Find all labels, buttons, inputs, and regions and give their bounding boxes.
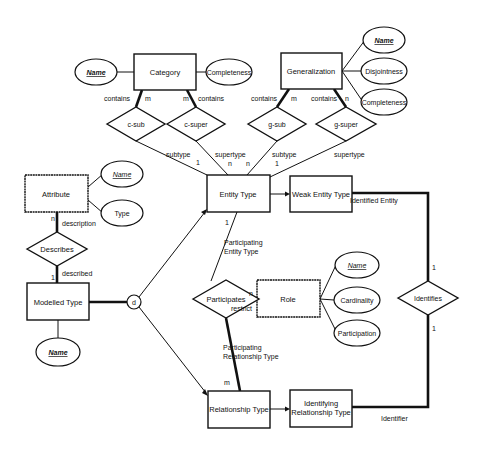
entity-category[interactable]: Category	[134, 54, 196, 90]
label-restrict: restrict	[231, 305, 252, 312]
label-participating-entity-2: Entity Type	[224, 248, 259, 256]
card-1-identifies-top: 1	[432, 264, 436, 271]
label-supertype-c: supertype	[215, 151, 246, 159]
relationship-c-sub[interactable]: c-sub	[107, 107, 165, 141]
card-n-g-sub: n	[246, 160, 250, 167]
card-1-g-sub: 1	[275, 160, 279, 167]
card-1-described: 1	[51, 274, 55, 281]
relationship-type-label: Relationship Type	[209, 405, 268, 414]
gen-name-text: Name	[374, 37, 393, 44]
describes-label: Describes	[40, 245, 74, 254]
g-super-label: g-super	[334, 121, 358, 129]
attribute-attribute-type[interactable]: Type	[101, 200, 143, 226]
entity-relationship-type[interactable]: Relationship Type	[208, 391, 270, 428]
participates-label: Participates	[206, 295, 245, 304]
generalization-label: Generalization	[287, 67, 335, 76]
label-description: description	[62, 220, 96, 228]
label-subtype-c: subtype	[166, 151, 191, 159]
attribute-label: Attribute	[42, 190, 70, 199]
label-identified-entity: Identified Entity	[350, 197, 398, 205]
attribute-generalization-name[interactable]: Name	[363, 27, 405, 53]
attr-name-text: Name	[113, 171, 132, 178]
relationship-c-super[interactable]: c-super	[167, 107, 225, 141]
label-contains-g-super: contains	[311, 95, 338, 102]
entity-modelled-type[interactable]: Modelled Type	[27, 283, 89, 320]
attribute-role-participation[interactable]: Participation	[334, 320, 380, 346]
g-sub-label: g-sub	[268, 121, 286, 129]
card-m-c-super: m	[183, 95, 189, 102]
attribute-role-cardinality[interactable]: Cardinality	[334, 287, 380, 313]
weak-entity-type-label: Weak Entity Type	[292, 190, 350, 199]
c-sub-label: c-sub	[127, 121, 144, 128]
relationship-g-sub[interactable]: g-sub	[248, 107, 306, 141]
card-n-role: n	[249, 290, 253, 297]
relationship-describes[interactable]: Describes	[27, 232, 87, 266]
modelled-type-label: Modelled Type	[34, 298, 83, 307]
label-described: described	[62, 270, 92, 277]
entity-type-label: Entity Type	[220, 190, 257, 199]
category-name-text: Name	[86, 69, 105, 76]
identifying-rel-label-1: Identifying	[304, 399, 338, 408]
edge-labels: contains m m contains contains m contain…	[51, 95, 436, 422]
entity-attribute[interactable]: Attribute	[25, 175, 88, 212]
entity-identifying-relationship-type[interactable]: Identifying Relationship Type	[290, 390, 352, 427]
card-n-c-super: n	[228, 160, 232, 167]
card-m-g-sub: m	[291, 95, 297, 102]
role-cardinality-text: Cardinality	[340, 297, 374, 305]
modelled-name-text: Name	[48, 349, 67, 356]
attribute-generalization-disjointness[interactable]: Disjointness	[361, 58, 407, 84]
label-participating-rel-2: Relationship Type	[223, 353, 279, 361]
identifying-rel-label-2: Relationship Type	[291, 408, 350, 417]
entity-generalization[interactable]: Generalization	[281, 53, 342, 89]
label-contains-c-sub: contains	[104, 95, 131, 102]
label-participating-entity-1: Participating	[224, 239, 263, 247]
card-m-participating-rel: m	[224, 379, 230, 386]
relationship-g-super[interactable]: g-super	[316, 107, 376, 141]
gen-disjointness-text: Disjointness	[365, 68, 403, 76]
label-contains-c-super: contains	[198, 95, 225, 102]
entity-entity-type[interactable]: Entity Type	[207, 175, 270, 212]
attribute-attribute-name[interactable]: Name	[101, 161, 143, 187]
disjoint-specialization-circle[interactable]: d	[127, 295, 141, 309]
gen-completeness-text: Completeness	[362, 99, 407, 107]
label-identifier: Identifier	[381, 415, 409, 422]
c-super-label: c-super	[184, 121, 208, 129]
er-diagram: Category Generalization Entity Type Weak…	[0, 0, 483, 449]
attribute-modelled-name[interactable]: Name	[36, 338, 80, 366]
label-contains-g-sub: contains	[251, 95, 278, 102]
label-subtype-g: subtype	[272, 151, 297, 159]
entity-weak-entity-type[interactable]: Weak Entity Type	[290, 176, 352, 212]
card-1-identifies-bottom: 1	[432, 325, 436, 332]
attribute-generalization-completeness[interactable]: Completeness	[361, 89, 407, 115]
disjoint-symbol: d	[132, 299, 136, 306]
label-participating-rel-1: Participating	[223, 344, 262, 352]
category-label: Category	[150, 68, 181, 77]
label-supertype-g: supertype	[334, 151, 365, 159]
attribute-category-name[interactable]: Name	[75, 59, 117, 85]
role-name-text: Name	[348, 262, 367, 269]
attribute-role-name[interactable]: Name	[335, 252, 379, 278]
card-m-c-sub: m	[145, 95, 151, 102]
card-n-describes: n	[51, 215, 55, 222]
role-label: Role	[280, 295, 295, 304]
entity-role[interactable]: Role	[257, 280, 320, 317]
role-participation-text: Participation	[338, 330, 377, 338]
card-n-g-super: n	[345, 95, 349, 102]
card-1-participating-entity: 1	[225, 219, 229, 226]
category-completeness-text: Completeness	[207, 69, 252, 77]
relationship-participates[interactable]: Participates	[193, 280, 259, 318]
identifies-label: Identifies	[414, 295, 443, 302]
card-1-c-sub: 1	[196, 159, 200, 166]
attribute-category-completeness[interactable]: Completeness	[206, 59, 252, 85]
attr-type-text: Type	[114, 210, 129, 218]
relationship-identifies[interactable]: Identifies	[398, 281, 458, 315]
